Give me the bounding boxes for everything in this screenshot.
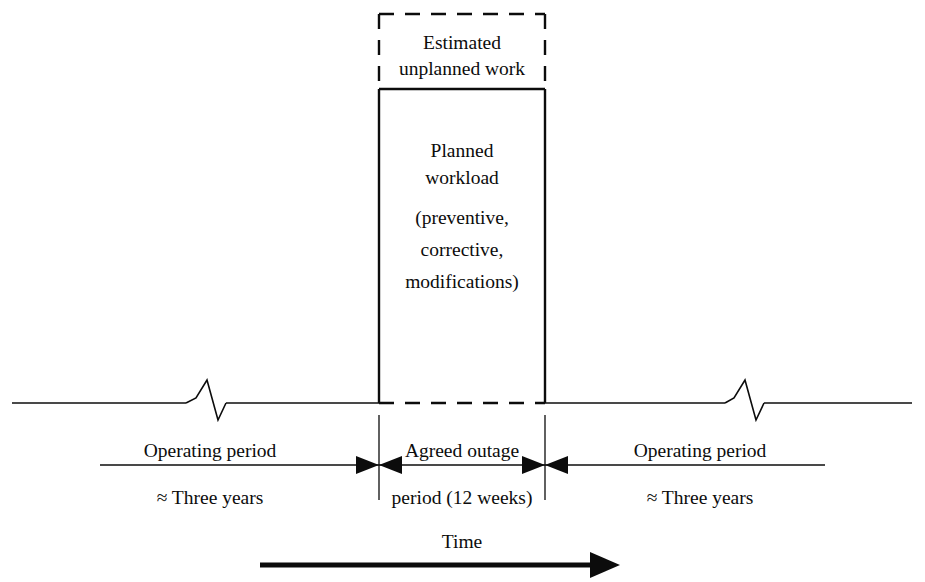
outage-timeline-diagram: Estimated unplanned work Planned workloa… [0,0,925,582]
dimension-agreed-outage-period: Agreed outage period (12 weeks) [379,440,545,509]
right-period-label: Operating period [634,440,767,461]
left-period-duration: ≈ Three years [157,487,264,508]
baseline-break-left-icon [186,380,226,420]
dimension-left-operating-period: Operating period ≈ Three years [100,440,379,508]
left-period-label: Operating period [144,440,277,461]
unplanned-label-line1: Estimated [423,32,501,53]
right-period-duration: ≈ Three years [647,487,754,508]
time-axis-arrow: Time [260,531,620,578]
unplanned-label-line2: unplanned work [399,58,525,79]
outage-duration: period (12 weeks) [392,487,533,509]
dimension-outage-arrowhead-left [379,456,402,474]
dimension-left-arrowhead-right [356,456,379,474]
estimated-unplanned-work-block: Estimated unplanned work [379,14,545,89]
timeline-baseline [12,380,912,420]
planned-workload-block: Planned workload (preventive, corrective… [379,89,545,403]
planned-label-line2: workload [425,167,499,188]
planned-label-line4: corrective, [421,239,504,260]
baseline-break-right-icon [725,380,764,420]
planned-label-line3: (preventive, [415,207,509,229]
planned-label-line5: modifications) [405,271,519,293]
dimension-right-operating-period: Operating period ≈ Three years [545,440,825,508]
outage-label: Agreed outage [405,440,519,461]
time-arrow-head [590,552,620,578]
dimension-right-arrowhead-left [545,456,568,474]
planned-label-line1: Planned [431,140,494,161]
diagram-canvas: Estimated unplanned work Planned workloa… [0,0,925,582]
time-axis-label: Time [442,531,482,552]
dimension-outage-arrowhead-right [522,456,545,474]
